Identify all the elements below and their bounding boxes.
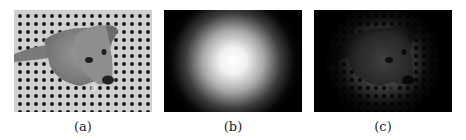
panel-b-gaussian-mask [164, 10, 302, 112]
gaussian-mask-image [164, 10, 302, 112]
panel-a-original-image [14, 10, 152, 112]
dog-photo [14, 10, 152, 112]
panel-c-masked-image [314, 10, 452, 112]
masked-dog-photo [314, 10, 452, 112]
caption-a: (a) [14, 119, 152, 134]
caption-c: (c) [314, 119, 452, 134]
caption-b: (b) [164, 119, 302, 134]
